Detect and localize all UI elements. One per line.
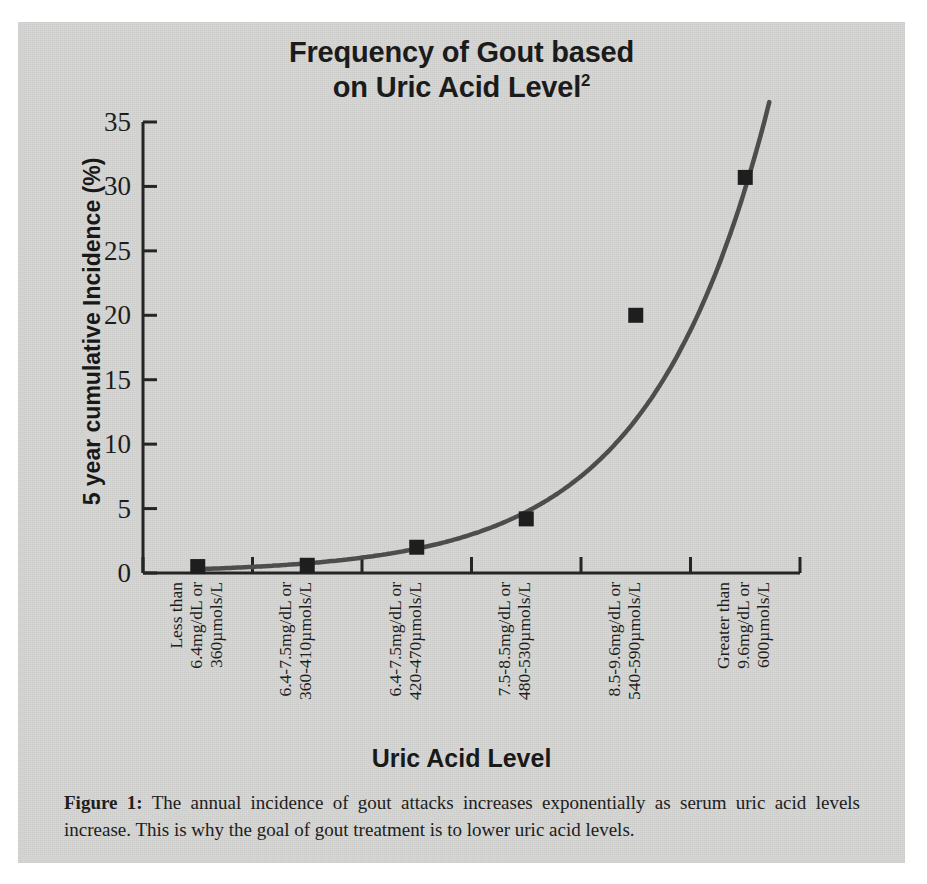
y-axis-tick-label: 35 [104,107,131,137]
y-axis-tick-label: 30 [104,171,131,201]
x-axis-tick-label: 8.5-9.6mg/dL or540-590µmols/L [605,582,667,742]
x-axis-tick-label-line: 6.4-7.5mg/dL or [276,582,296,742]
figure-caption-text: The annual incidence of gout attacks inc… [64,792,860,840]
y-axis-tick-label: 5 [118,494,132,524]
x-axis-tick-label-line: 420-470µmols/L [406,582,426,742]
data-point-marker [409,540,424,555]
x-axis-tick-label-line: Less than [167,582,187,742]
x-axis-tick-label-line: 480-530µmols/L [515,582,535,742]
x-axis-ticks [143,557,800,573]
data-point-marker [628,308,643,323]
x-axis-tick-label-line: 600µmols/L [754,582,774,742]
x-axis-tick-label: Greater than9.6mg/dL or600µmols/L [714,582,776,742]
y-axis-ticks [143,122,157,573]
figure-caption: Figure 1: The annual incidence of gout a… [64,790,860,844]
y-axis-tick-labels: 05101520253035 [104,107,131,588]
x-axis-tick-label: Less than6.4mg/dL or360µmols/L [167,582,229,742]
y-axis-tick-label: 25 [104,236,131,266]
x-axis-tick-labels: Less than6.4mg/dL or360µmols/L6.4-7.5mg/… [18,578,905,748]
figure-caption-label: Figure 1: [64,792,143,813]
x-axis-tick-label-line: 7.5-8.5mg/dL or [495,582,515,742]
x-axis-tick-label-line: 6.4mg/dL or [187,582,207,742]
x-axis-tick-label: 6.4-7.5mg/dL or360-410µmols/L [276,582,338,742]
y-axis-tick-label: 20 [104,300,131,330]
x-axis-tick-label-line: 9.6mg/dL or [734,582,754,742]
x-axis-tick-label-line: 6.4-7.5mg/dL or [386,582,406,742]
figure-panel: Frequency of Gout based on Uric Acid Lev… [18,22,905,863]
x-axis-title: Uric Acid Level [18,744,905,773]
x-axis-tick-label-line: 360-410µmols/L [296,582,316,742]
x-axis-tick-label-line: 540-590µmols/L [625,582,645,742]
x-axis-tick-label: 7.5-8.5mg/dL or480-530µmols/L [495,582,557,742]
y-axis-title: 5 year cumulative Incidence (%) [79,122,106,542]
data-point-marker [738,170,753,185]
x-axis-tick-label-line: Greater than [714,582,734,742]
x-axis-tick-label: 6.4-7.5mg/dL or420-470µmols/L [386,582,448,742]
data-point-marker [190,559,205,574]
y-axis-tick-label: 10 [104,429,131,459]
x-axis-tick-label-line: 360µmols/L [206,582,226,742]
data-point-marker [300,558,315,573]
chart-plot-area: 05101520253035 [18,22,905,622]
trend-line [196,102,770,569]
x-axis-tick-label-line: 8.5-9.6mg/dL or [605,582,625,742]
data-point-marker [519,511,534,526]
y-axis-tick-label: 15 [104,365,131,395]
